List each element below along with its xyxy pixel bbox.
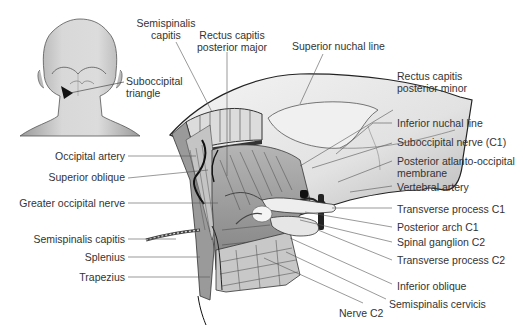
label-line: Transverse process C1 (397, 203, 505, 215)
label-line: Semispinalis cervicis (389, 298, 486, 310)
label-line: Nerve C2 (339, 307, 383, 319)
label-spinal-ganglion-c2: Spinal ganglion C2 (397, 236, 485, 248)
label-line: Rectus capitis (397, 70, 467, 82)
label-splenius: Splenius (0, 251, 125, 263)
label-line: Posterior arch C1 (397, 221, 479, 233)
label-line: Occipital artery (0, 150, 125, 162)
label-inferior-nuchal-line: Inferior nuchal line (397, 117, 483, 129)
label-line: triangle (126, 87, 183, 99)
label-line: Rectus capitis (190, 29, 274, 41)
label-line: Splenius (0, 251, 125, 263)
label-line: Inferior nuchal line (397, 117, 483, 129)
label-suboccipital-nerve: Suboccipital nerve (C1) (397, 136, 506, 148)
label-line: Trapezius (0, 271, 125, 283)
anatomy-figure: Suboccipital triangle Semispinalis capit… (0, 0, 523, 330)
label-line: Superior nuchal line (292, 40, 385, 52)
label-line: Greater occipital nerve (0, 197, 125, 209)
label-nerve-c2: Nerve C2 (339, 307, 383, 319)
label-posterior-atlanto-occipital-membrane: Posterior atlanto-occipital membrane (397, 155, 515, 179)
label-line: Transverse process C2 (397, 254, 505, 266)
label-trapezius: Trapezius (0, 271, 125, 283)
label-inferior-oblique: Inferior oblique (397, 280, 466, 292)
label-line: Superior oblique (0, 171, 125, 183)
label-semispinalis-capitis-left: Semispinalis capitis (0, 233, 125, 245)
inset-head (20, 19, 140, 136)
label-line: Spinal ganglion C2 (397, 236, 485, 248)
label-line: Suboccipital (126, 75, 183, 87)
label-vertebral-artery: Vertebral artery (397, 181, 469, 193)
label-transverse-process-c1: Transverse process C1 (397, 203, 505, 215)
label-transverse-process-c2: Transverse process C2 (397, 254, 505, 266)
label-rectus-capitis-posterior-minor: Rectus capitis posterior minor (397, 70, 467, 94)
label-posterior-arch-c1: Posterior arch C1 (397, 221, 479, 233)
label-line: Vertebral artery (397, 181, 469, 193)
label-line: Semispinalis (128, 17, 204, 29)
label-superior-oblique: Superior oblique (0, 171, 125, 183)
label-line: Suboccipital nerve (C1) (397, 136, 506, 148)
label-superior-nuchal-line: Superior nuchal line (292, 40, 385, 52)
label-line: Inferior oblique (397, 280, 466, 292)
label-suboccipital-triangle: Suboccipital triangle (126, 75, 183, 99)
label-line: Posterior atlanto-occipital (397, 155, 515, 167)
label-rectus-capitis-posterior-major: Rectus capitis posterior major (190, 29, 274, 53)
label-line: posterior minor (397, 82, 467, 94)
label-semispinalis-cervicis: Semispinalis cervicis (389, 298, 486, 310)
label-line: membrane (397, 167, 515, 179)
label-line: posterior major (190, 41, 274, 53)
label-occipital-artery: Occipital artery (0, 150, 125, 162)
label-line: Semispinalis capitis (0, 233, 125, 245)
label-greater-occipital-nerve: Greater occipital nerve (0, 197, 125, 209)
